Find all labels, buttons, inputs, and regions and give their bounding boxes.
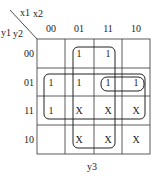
row-vars-label: y1 y2 — [1, 27, 23, 39]
row-header: 01 — [24, 77, 34, 88]
row-header: 00 — [24, 48, 34, 59]
cell-values: 1 1 1 1 1 1 1 X X X X X X — [49, 48, 141, 145]
row-var-y2: y2 — [13, 28, 23, 39]
row-header: 10 — [24, 134, 34, 145]
column-headers: 00 01 11 10 — [46, 23, 141, 34]
groupings — [44, 47, 145, 148]
cell: X — [75, 134, 83, 145]
cell: 1 — [77, 77, 82, 88]
col-header: 00 — [46, 23, 56, 34]
cell: X — [104, 134, 112, 145]
cell: 1 — [106, 77, 111, 88]
karnaugh-map: x1 x2 y1 y2 00 01 11 10 00 01 11 10 1 1 … — [0, 0, 159, 178]
cell: 1 — [134, 77, 139, 88]
row-var-y1: y1 — [1, 27, 11, 38]
cell: 1 — [77, 48, 82, 59]
col-var-x1: x1 — [20, 7, 30, 18]
horizontal-group-loop — [44, 74, 145, 119]
cell: X — [104, 105, 112, 116]
cell: 1 — [49, 77, 54, 88]
col-header: 01 — [74, 23, 84, 34]
cell: X — [132, 105, 140, 116]
row-header: 11 — [24, 105, 34, 116]
col-header: 10 — [131, 23, 141, 34]
cell: 1 — [49, 105, 54, 116]
cell: 1 — [106, 48, 111, 59]
col-var-x2: x2 — [33, 8, 43, 19]
col-vars-label: x1 x2 — [20, 7, 43, 19]
col-header: 11 — [103, 23, 113, 34]
output-label: y3 — [87, 161, 97, 172]
row-headers: 00 01 11 10 — [24, 48, 34, 145]
cell: X — [132, 134, 140, 145]
cell: X — [75, 105, 83, 116]
